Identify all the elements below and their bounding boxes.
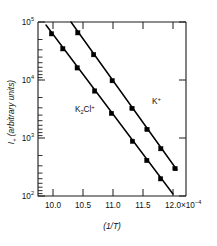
y-tick-exp-2: 3 bbox=[31, 132, 34, 138]
plot-frame bbox=[38, 22, 186, 196]
data-point bbox=[158, 177, 162, 181]
data-point bbox=[91, 53, 95, 57]
y-major-ticks bbox=[38, 22, 45, 196]
data-point bbox=[109, 111, 113, 115]
data-point bbox=[159, 147, 163, 151]
series-k-plus bbox=[71, 22, 177, 171]
chart-figure: 105 104 103 102 10.0 10.5 11.0 11.5 12.0… bbox=[0, 0, 217, 246]
x-axis-multiplier: ×10−4 bbox=[181, 199, 201, 210]
data-point bbox=[173, 166, 177, 170]
chart-canvas: 105 104 103 102 10.0 10.5 11.0 11.5 12.0… bbox=[0, 0, 217, 246]
y-axis-title: I+ (arbitrary units) bbox=[6, 80, 17, 144]
svg-text:103: 103 bbox=[22, 132, 34, 143]
data-point bbox=[145, 158, 149, 162]
x-tick-labels: 10.0 10.5 11.0 11.5 12.0 ×10−4 bbox=[45, 199, 201, 210]
y-minor-ticks bbox=[38, 40, 43, 194]
y-tick-exp-4: 5 bbox=[31, 16, 34, 22]
data-point bbox=[76, 31, 80, 35]
data-point bbox=[49, 32, 53, 36]
y-tick-labels: 105 104 103 102 bbox=[22, 16, 34, 201]
svg-text:102: 102 bbox=[22, 190, 34, 201]
series-k2cl-plus bbox=[46, 25, 173, 194]
data-point bbox=[130, 106, 134, 110]
data-point bbox=[145, 127, 149, 131]
data-point bbox=[61, 47, 65, 51]
series-label-k2cl-plus: K2Cl+ bbox=[75, 104, 95, 116]
svg-text:105: 105 bbox=[22, 16, 34, 27]
y-tick-base-2: 10 bbox=[22, 134, 32, 143]
x-axis-title: (1/T) bbox=[103, 221, 121, 231]
x-tick-label-3: 11.0 bbox=[105, 201, 121, 210]
data-point bbox=[110, 79, 114, 83]
svg-text:104: 104 bbox=[22, 74, 34, 85]
data-point bbox=[130, 139, 134, 143]
x-tick-label-5: 12.0 bbox=[165, 201, 181, 210]
y-tick-base-1: 10 bbox=[22, 192, 32, 201]
x-tick-label-4: 11.5 bbox=[135, 201, 151, 210]
axis-lines bbox=[38, 22, 186, 196]
y-axis-title-rest: (arbitrary units) bbox=[6, 80, 16, 139]
series-label-k-plus: K+ bbox=[152, 96, 161, 106]
y-tick-base-4: 10 bbox=[22, 18, 32, 27]
x-tick-label-2: 10.5 bbox=[75, 201, 91, 210]
x-major-ticks bbox=[53, 189, 173, 196]
y-tick-exp-1: 2 bbox=[31, 190, 34, 196]
y-tick-exp-3: 4 bbox=[31, 74, 34, 80]
y-tick-base-3: 10 bbox=[22, 76, 32, 85]
x-tick-label-1: 10.0 bbox=[45, 201, 61, 210]
data-point bbox=[92, 89, 96, 93]
data-point bbox=[75, 66, 79, 70]
y-right-ticks bbox=[179, 22, 186, 196]
